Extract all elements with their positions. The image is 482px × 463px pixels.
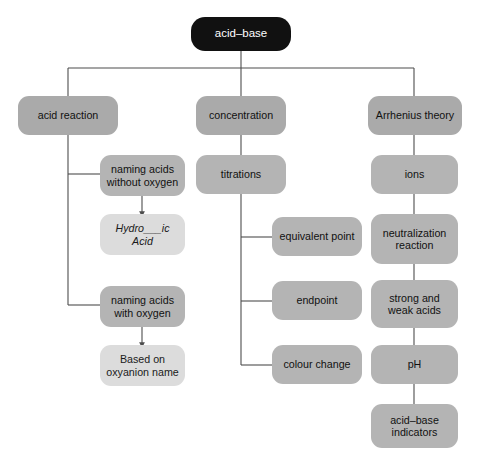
node-label: equivalent point (280, 230, 355, 242)
node-label: acid reaction (38, 109, 99, 121)
node-label: Hydro___ic Acid (115, 222, 169, 246)
node-label: acid–base indicators (390, 414, 439, 438)
node-naming-acids-with-oxygen[interactable]: naming acids with oxygen (100, 286, 185, 327)
node-strong-and-weak-acids[interactable]: strong and weak acids (371, 280, 458, 328)
node-ph[interactable]: pH (371, 345, 458, 384)
node-label: ions (405, 168, 425, 180)
node-label: pH (408, 358, 422, 370)
node-label: titrations (221, 168, 261, 180)
node-label: strong and weak acids (388, 292, 441, 316)
node-colour-change[interactable]: colour change (272, 345, 362, 384)
node-ions[interactable]: ions (371, 155, 458, 194)
node-naming-acids-without-oxygen[interactable]: naming acids without oxygen (100, 155, 185, 196)
node-titrations[interactable]: titrations (196, 155, 286, 194)
node-acid-base-root[interactable]: acid–base (191, 17, 291, 51)
node-equivalent-point[interactable]: equivalent point (272, 217, 362, 256)
node-label: Based on oxyanion name (106, 353, 179, 377)
node-acid-reaction[interactable]: acid reaction (18, 96, 118, 135)
node-label: neutralization reaction (383, 227, 447, 251)
node-hydro-ic-acid[interactable]: Hydro___ic Acid (100, 214, 185, 255)
node-based-on-oxyanion-name[interactable]: Based on oxyanion name (100, 345, 185, 386)
node-concentration[interactable]: concentration (196, 96, 286, 135)
node-label: colour change (283, 358, 350, 370)
concept-map-diagram: acid–base acid reaction concentration Ar… (0, 0, 482, 463)
node-neutralization-reaction[interactable]: neutralization reaction (371, 214, 458, 264)
node-label: naming acids without oxygen (107, 163, 178, 187)
node-endpoint[interactable]: endpoint (272, 281, 362, 320)
node-label: endpoint (296, 294, 337, 306)
node-arrhenius-theory[interactable]: Arrhenius theory (368, 96, 462, 135)
node-label: naming acids with oxygen (111, 294, 174, 318)
node-label: concentration (209, 109, 273, 121)
node-label: acid–base (215, 27, 267, 40)
node-acid-base-indicators[interactable]: acid–base indicators (371, 404, 458, 448)
node-label: Arrhenius theory (376, 109, 454, 121)
